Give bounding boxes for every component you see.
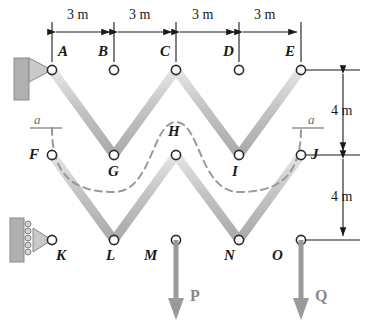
node-label-L: L: [106, 248, 115, 263]
node-label-J: J: [311, 147, 319, 162]
node-I: [234, 150, 243, 159]
section-label-right: a: [308, 113, 315, 126]
node-label-K: K: [56, 248, 66, 263]
node-label-B: B: [98, 44, 108, 59]
node-label-G: G: [108, 164, 119, 179]
load-label-P: P: [190, 288, 200, 304]
node-label-C: C: [160, 44, 170, 59]
node-L: [109, 235, 118, 244]
node-label-N: N: [224, 248, 235, 263]
node-C: [171, 65, 180, 74]
truss-figure: [0, 0, 368, 330]
node-label-A: A: [58, 44, 68, 59]
node-G: [109, 150, 118, 159]
dim-label-BC: 3 m: [129, 8, 150, 22]
node-D: [234, 65, 243, 74]
node-K: [47, 235, 56, 244]
node-label-E: E: [285, 44, 295, 59]
node-A: [47, 65, 56, 74]
load-label-Q: Q: [315, 288, 327, 304]
dim-label-DE: 3 m: [254, 8, 275, 22]
node-label-I: I: [232, 164, 238, 179]
dim-label-lower-4m: 4 m: [331, 190, 352, 204]
node-label-M: M: [144, 248, 157, 263]
node-B: [109, 65, 118, 74]
node-label-F: F: [29, 147, 39, 162]
node-F: [47, 150, 56, 159]
node-label-O: O: [272, 248, 283, 263]
node-H: [171, 150, 180, 159]
dim-label-upper-4m: 4 m: [331, 104, 352, 118]
node-J: [296, 150, 305, 159]
dim-label-CD: 3 m: [192, 8, 213, 22]
node-label-H: H: [168, 124, 180, 139]
dim-label-AB: 3 m: [67, 8, 88, 22]
section-label-left: a: [34, 113, 41, 126]
node-N: [234, 235, 243, 244]
node-label-D: D: [223, 44, 234, 59]
node-E: [296, 65, 305, 74]
